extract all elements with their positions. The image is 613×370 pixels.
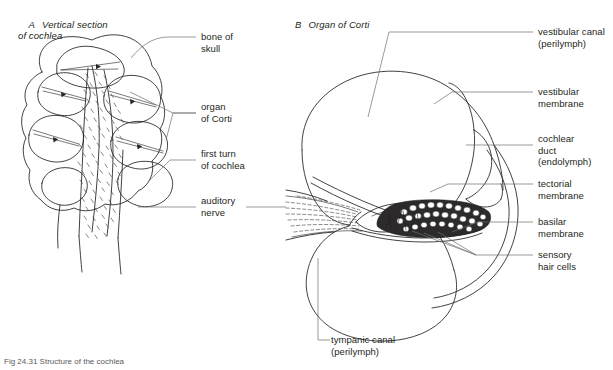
label-sensory-hair-cells: sensory hair cells xyxy=(538,249,576,272)
panel-b-letter: B xyxy=(295,19,301,30)
panel-a-drawing xyxy=(22,35,286,274)
panel-b-title-text: Organ of Corti xyxy=(308,19,369,30)
label-auditory-nerve: auditory nerve xyxy=(201,195,235,218)
panel-b-drawing xyxy=(286,32,533,341)
label-cochlear-duct: cochlear duct (endolymph) xyxy=(538,133,591,168)
cochlea-figure: AVertical section of cochlea BOrgan of C… xyxy=(0,0,613,370)
label-first-turn-of-cochlea: first turn of cochlea xyxy=(201,148,245,171)
label-tympanic-canal: tympanic canal (perilymph) xyxy=(331,334,395,357)
organ-of-corti-cells xyxy=(377,200,491,238)
label-basilar-membrane: basilar membrane xyxy=(538,216,584,239)
figure-caption: Fig 24.31 Structure of the cochlea xyxy=(4,357,124,367)
panel-b-title: BOrgan of Corti xyxy=(284,8,369,41)
label-organ-of-corti: organ of Corti xyxy=(201,101,232,124)
panel-b-leaders xyxy=(318,32,533,340)
panel-a-title: AVertical section of cochlea xyxy=(18,8,108,52)
label-vestibular-canal: vestibular canal (perilymph) xyxy=(538,26,605,49)
panel-a-letter: A xyxy=(29,19,35,30)
label-bone-of-skull: bone of skull xyxy=(201,31,233,54)
label-vestibular-membrane: vestibular membrane xyxy=(538,86,584,109)
label-tectorial-membrane: tectorial membrane xyxy=(538,178,584,201)
figure-artwork xyxy=(0,0,613,370)
